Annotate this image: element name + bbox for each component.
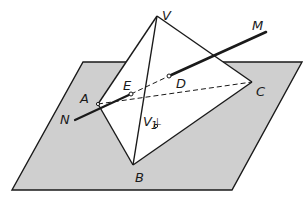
label-D: D [176, 76, 186, 91]
label-E: E [123, 78, 132, 93]
label-N: N [60, 112, 70, 127]
label-A: A [79, 91, 89, 106]
label-M: M [252, 18, 263, 33]
label-V: V [162, 8, 172, 23]
point-A [96, 102, 99, 105]
perpendicular-symbol: ⊥ [153, 116, 162, 127]
point-D [167, 74, 171, 78]
diagram-canvas: V M D E A N C B V 1 ⊥ [0, 0, 308, 202]
tetrahedron-diagram: V M D E A N C B V 1 ⊥ [0, 0, 308, 202]
label-B: B [135, 170, 144, 185]
label-C: C [256, 84, 266, 99]
